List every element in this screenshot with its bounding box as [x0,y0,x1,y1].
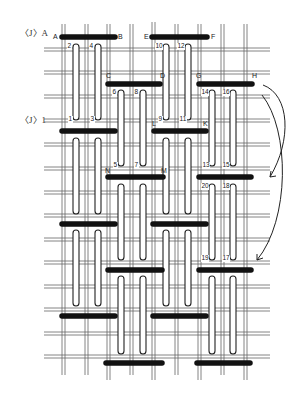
stitch-number: 20 [201,183,209,190]
arrow-to-second-row [263,85,285,177]
tie-bars [62,37,252,363]
stitch-number: 4 [89,43,94,50]
stitch-number: 8 [134,89,139,96]
stitch-number: 9 [158,116,163,123]
stitch-number: 6 [112,89,117,96]
point-label-e: E [144,33,149,40]
side-label-1: 〈J〉1 [20,116,46,125]
direction-arrows [257,85,285,260]
stitch-number: 15 [222,162,230,169]
stitch-number: 3 [90,116,95,123]
stitch-diagram [0,0,304,398]
stitch-number: 19 [201,255,209,262]
point-label-f: F [211,33,215,40]
point-label-b: B [118,33,123,40]
arrow-to-third-row [257,95,282,260]
point-label-k: K [203,120,208,127]
stitch-number: 2 [67,43,72,50]
point-label-c: C [106,72,111,79]
stitch-number: 10 [155,43,163,50]
stitch-number: 18 [222,183,230,190]
loops [73,44,236,354]
stitch-number: 11 [179,116,187,123]
point-label-m: M [161,167,167,174]
vertical-threads [62,22,247,380]
point-label-h: H [252,72,257,79]
point-label-g: G [196,72,201,79]
stitch-number: 17 [222,255,230,262]
point-label-a: A [53,33,58,40]
stitch-number: 7 [134,162,139,169]
point-label-l: L [152,120,156,127]
stitch-number: 5 [113,162,118,169]
point-label-d: D [160,72,165,79]
stitch-number: 14 [201,89,209,96]
stitch-number: 1 [68,116,73,123]
side-label-a: 〈J〉A [20,29,48,38]
stitch-number: 12 [177,43,185,50]
stitch-number: 13 [202,162,210,169]
stitch-number: 16 [222,89,230,96]
point-label-n: N [105,167,110,174]
